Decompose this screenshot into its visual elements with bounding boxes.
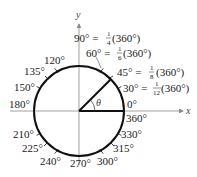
label-30-tail: (360°) (161, 82, 190, 95)
label-150: 150° (14, 81, 35, 93)
angle-arc (90, 100, 95, 111)
label-30: 30° = (123, 82, 147, 94)
label-30-den: 12 (153, 89, 161, 97)
label-30-num: 1 (155, 80, 159, 88)
label-45-num: 1 (150, 64, 154, 72)
label-330: 330° (121, 128, 142, 140)
label-225: 225° (22, 142, 43, 154)
label-120: 120° (44, 54, 65, 66)
label-300: 300° (97, 155, 118, 167)
label-60-tail: (360°) (123, 47, 152, 60)
label-90-den: 4 (107, 39, 111, 47)
terminal-side (79, 79, 111, 111)
label-45-tail: (360°) (156, 66, 185, 79)
label-45-den: 8 (150, 73, 154, 81)
label-60: 60° = (86, 47, 110, 59)
label-90-num: 1 (107, 30, 111, 38)
label-180: 180° (9, 98, 30, 110)
label-90: 90° = (74, 32, 98, 44)
label-315: 315° (113, 142, 134, 154)
y-axis-label: y (75, 9, 81, 20)
label-60-num: 1 (118, 45, 122, 53)
x-axis-label: x (185, 105, 191, 116)
label-270: 270° (70, 157, 91, 169)
label-60-den: 6 (118, 54, 122, 62)
label-360: 360° (126, 112, 147, 124)
label-210: 210° (13, 128, 34, 140)
unit-circle-diagram: x y θ 90° = 1 4 (360°) 60° = 1 6 (360°) … (0, 0, 197, 177)
theta-label: θ (96, 97, 101, 108)
label-240: 240° (40, 155, 61, 167)
label-0: 0° (127, 98, 137, 110)
label-135: 135° (24, 65, 45, 77)
label-90-tail: (360°) (112, 32, 141, 45)
label-45: 45° = (117, 66, 141, 78)
